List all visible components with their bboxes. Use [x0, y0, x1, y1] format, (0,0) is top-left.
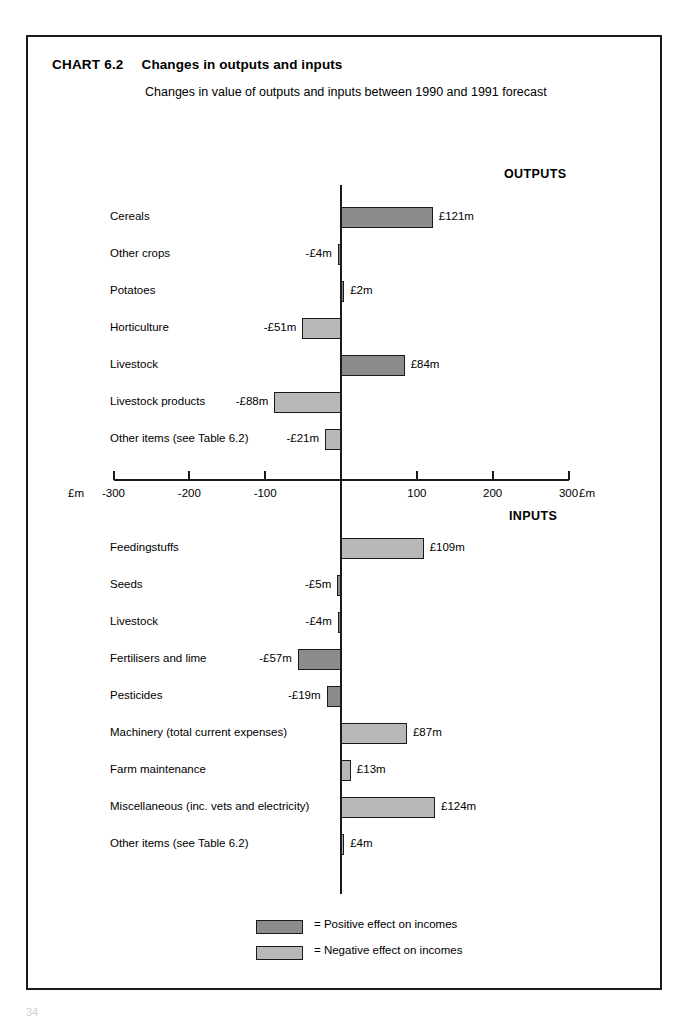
- chart-bar-row: Machinery (total current expenses)£87m: [28, 721, 664, 747]
- chart-bar-row: Other items (see Table 6.2)£4m: [28, 832, 664, 858]
- chart-bar-row: Farm maintenance£13m: [28, 758, 664, 784]
- bar-category-label: Other crops: [110, 247, 170, 259]
- axis-tick: [188, 471, 190, 480]
- chart-bar: [338, 244, 341, 265]
- chart-bar: [341, 834, 344, 855]
- bar-category-label: Farm maintenance: [110, 763, 206, 775]
- chart-bar: [274, 392, 341, 413]
- chart-bar: [341, 355, 405, 376]
- chart-bar: [341, 723, 407, 744]
- bar-value-label: £13m: [357, 763, 386, 775]
- chart-bar: [338, 612, 341, 633]
- axis-tick-label: -200: [166, 487, 212, 499]
- bar-value-label: -£5m: [305, 578, 331, 590]
- axis-tick: [113, 471, 115, 480]
- bar-category-label: Livestock: [110, 615, 158, 627]
- bar-category-label: Miscellaneous (inc. vets and electricity…: [110, 800, 309, 812]
- bar-value-label: £87m: [413, 726, 442, 738]
- chart-bar: [341, 538, 424, 559]
- bar-value-label: £84m: [411, 358, 440, 370]
- axis-tick-label: 200: [470, 487, 516, 499]
- chart-bar-row: Feedingstuffs£109m: [28, 536, 664, 562]
- bar-category-label: Other items (see Table 6.2): [110, 432, 249, 444]
- bar-value-label: -£4m: [306, 247, 332, 259]
- chart-bar-row: Horticulture-£51m: [28, 316, 664, 342]
- bar-category-label: Livestock products: [110, 395, 205, 407]
- bar-value-label: -£19m: [288, 689, 321, 701]
- bar-value-label: -£21m: [286, 432, 319, 444]
- chart-bar-row: Other items (see Table 6.2)-£21m: [28, 427, 664, 453]
- chart-bar: [341, 797, 435, 818]
- section-heading-inputs: INPUTS: [509, 509, 557, 523]
- bar-value-label: -£4m: [306, 615, 332, 627]
- chart-bar: [325, 429, 341, 450]
- bar-category-label: Machinery (total current expenses): [110, 726, 287, 738]
- bar-category-label: Horticulture: [110, 321, 169, 333]
- bar-value-label: -£51m: [264, 321, 297, 333]
- chart-bar-row: Pesticides-£19m: [28, 684, 664, 710]
- legend-label-negative: = Negative effect on incomes: [314, 944, 462, 956]
- chart-legend: = Positive effect on incomes = Negative …: [256, 917, 586, 969]
- axis-tick: [416, 471, 418, 480]
- bar-value-label: £121m: [439, 210, 474, 222]
- bar-value-label: £124m: [441, 800, 476, 812]
- bar-value-label: -£57m: [259, 652, 292, 664]
- chart-page: CHART 6.2Changes in outputs and inputs C…: [0, 0, 687, 1021]
- chart-bar-row: Other crops-£4m: [28, 242, 664, 268]
- legend-row-negative: = Negative effect on incomes: [256, 943, 586, 969]
- chart-bar-row: Potatoes£2m: [28, 279, 664, 305]
- bar-value-label: £109m: [430, 541, 465, 553]
- bar-value-label: £4m: [350, 837, 372, 849]
- axis-tick-label: 300: [546, 487, 592, 499]
- axis-unit-right: £m: [579, 487, 595, 499]
- axis-tick: [568, 471, 570, 480]
- bar-category-label: Livestock: [110, 358, 158, 370]
- axis-tick-label: 100: [394, 487, 440, 499]
- chart-bar: [341, 207, 433, 228]
- bar-category-label: Potatoes: [110, 284, 155, 296]
- bar-category-label: Seeds: [110, 578, 143, 590]
- chart-bar-row: Seeds-£5m: [28, 573, 664, 599]
- axis-unit-left: £m: [68, 487, 84, 499]
- legend-label-positive: = Positive effect on incomes: [314, 918, 457, 930]
- bar-category-label: Cereals: [110, 210, 150, 222]
- axis-tick: [264, 471, 266, 480]
- chart-bar-row: Cereals£121m: [28, 205, 664, 231]
- chart-bar-row: Livestock-£4m: [28, 610, 664, 636]
- chart-bar-row: Miscellaneous (inc. vets and electricity…: [28, 795, 664, 821]
- legend-swatch-negative: [256, 946, 303, 960]
- legend-row-positive: = Positive effect on incomes: [256, 917, 586, 943]
- axis-tick-label: -300: [91, 487, 137, 499]
- chart-bar: [341, 281, 344, 302]
- chart-plot-area: OUTPUTS INPUTS -300-200-100100200300 £m …: [28, 37, 664, 992]
- bar-category-label: Feedingstuffs: [110, 541, 179, 553]
- chart-bar: [298, 649, 341, 670]
- axis-tick-label: -100: [242, 487, 288, 499]
- axis-tick: [492, 471, 494, 480]
- section-heading-outputs: OUTPUTS: [504, 167, 567, 181]
- chart-bar-row: Livestock£84m: [28, 353, 664, 379]
- chart-bar: [337, 575, 341, 596]
- chart-bar: [327, 686, 341, 707]
- chart-bar-row: Livestock products-£88m: [28, 390, 664, 416]
- bar-category-label: Other items (see Table 6.2): [110, 837, 249, 849]
- chart-frame: CHART 6.2Changes in outputs and inputs C…: [26, 35, 662, 990]
- chart-bar-row: Fertilisers and lime-£57m: [28, 647, 664, 673]
- legend-swatch-positive: [256, 920, 303, 934]
- page-number: 34: [26, 1006, 38, 1016]
- bar-category-label: Pesticides: [110, 689, 162, 701]
- bar-category-label: Fertilisers and lime: [110, 652, 207, 664]
- chart-bar: [341, 760, 351, 781]
- bar-value-label: £2m: [350, 284, 372, 296]
- chart-bar: [302, 318, 341, 339]
- bar-value-label: -£88m: [236, 395, 269, 407]
